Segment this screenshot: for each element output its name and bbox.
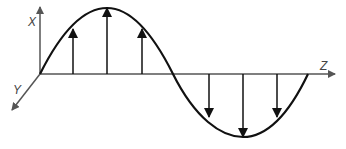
wave-diagram	[0, 0, 346, 149]
z-axis-label: Z	[320, 60, 327, 72]
x-axis-label: X	[28, 16, 36, 28]
down-vectors	[209, 74, 277, 137]
sine-wave	[40, 8, 308, 137]
axes	[12, 7, 335, 110]
y-axis-label: Y	[13, 84, 21, 96]
